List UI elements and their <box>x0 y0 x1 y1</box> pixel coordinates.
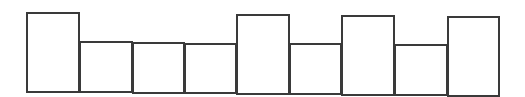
diagram-box-short <box>394 44 448 96</box>
diagram-box-short <box>184 43 237 94</box>
diagram-box-short <box>79 41 133 93</box>
diagram-box-tall <box>236 14 290 95</box>
diagram-box-short <box>289 43 342 95</box>
box-diagram <box>0 0 525 97</box>
diagram-box-tall <box>341 15 395 96</box>
diagram-box-tall <box>26 12 80 93</box>
diagram-box-short <box>132 42 185 94</box>
diagram-box-tall <box>447 16 500 97</box>
